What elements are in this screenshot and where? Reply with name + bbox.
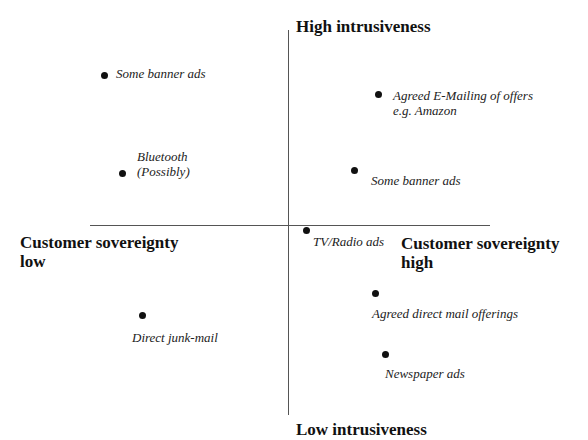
data-point-dot <box>375 91 382 98</box>
item-label-tv-radio-ads: TV/Radio ads <box>313 234 384 249</box>
item-label-agreed-direct-mail: Agreed direct mail offerings <box>372 306 518 321</box>
axis-label-low-intrusiveness: Low intrusiveness <box>296 420 427 439</box>
item-label-some-banner-ads-left: Some banner ads <box>116 66 206 81</box>
item-label-newspaper-ads: Newspaper ads <box>385 366 465 381</box>
item-label-some-banner-ads-right: Some banner ads <box>371 173 461 188</box>
data-point-dot <box>303 227 310 234</box>
axis-label-sovereignty-low: Customer sovereignty low <box>20 233 179 271</box>
item-label-direct-junk-mail: Direct junk-mail <box>132 330 218 345</box>
data-point-dot <box>372 290 379 297</box>
data-point-dot <box>101 72 108 79</box>
data-point-dot <box>382 351 389 358</box>
axis-label-high-intrusiveness: High intrusiveness <box>296 17 431 36</box>
item-label-bluetooth: Bluetooth (Possibly) <box>137 149 190 179</box>
horizontal-axis-sovereignty <box>90 225 490 226</box>
axis-label-sovereignty-high: Customer sovereignty high <box>401 234 560 272</box>
data-point-dot <box>119 170 126 177</box>
data-point-dot <box>139 312 146 319</box>
item-label-agreed-emailing: Agreed E-Mailing of offers e.g. Amazon <box>393 88 533 118</box>
data-point-dot <box>351 167 358 174</box>
vertical-axis-intrusiveness <box>288 30 289 415</box>
